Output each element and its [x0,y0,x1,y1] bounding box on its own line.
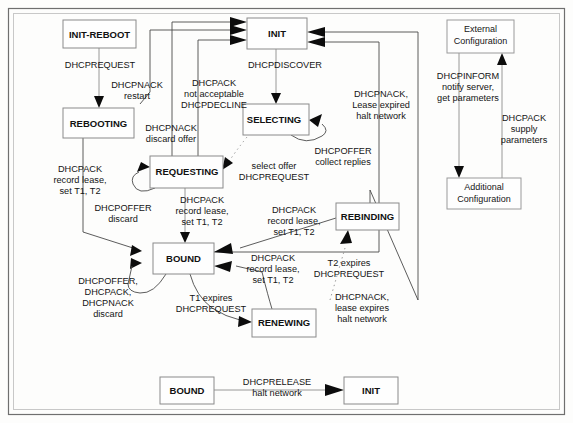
label-bound-to-renewing: T1 expires DHCPREQUEST [176,293,247,314]
edge-label-line: set T1, T2 [181,217,222,227]
state-label-rebinding: REBINDING [341,211,394,222]
arrowhead-requesting-left [137,162,150,172]
edge-label-line: record lease, [267,216,320,226]
edge-label-line: DHCPACK [180,195,225,205]
state-requesting[interactable]: REQUESTING [150,156,223,188]
dhcp-state-diagram-page: INIT-REBOOT INIT REBOOTING SELECTING REQ… [0,0,573,423]
label-selecting-self-offer: DHCPOFFER collect replies [314,146,372,167]
edge-label-line: DHCPREQUEST [239,172,310,182]
edge-label-line: record lease, [246,264,299,274]
edge-label-line: DHCPNACK [82,298,134,308]
state-renewing[interactable]: RENEWING [252,309,316,337]
edge-label-line: DHCPDECLINE [181,100,247,110]
edge-label-line: DHCPNACK, [335,292,389,302]
edge-label-line: DHCPACK [192,78,237,88]
edge-label-line: halt network [356,111,406,121]
edge-label-line: DHCPNACK [111,80,163,90]
state-label-renewing: RENEWING [258,317,310,328]
edge-label-line: DHCPOFFER [94,203,152,213]
label-bound-to-init-expired: DHCPNACK, Lease expired halt network [352,89,410,121]
edge-label-line: record lease, [175,206,228,216]
box-external-configuration[interactable]: External Configuration [447,20,514,53]
edge-label-line: DHCPREQUEST [176,304,247,314]
edge-label-line: record lease, [53,175,106,185]
arrowhead-bound-right-2 [214,261,232,272]
edge-label-line: set T1, T2 [252,275,293,285]
state-label-init: INIT [268,28,286,39]
label-additional-to-external-ack: DHCPACK supply parameters [501,113,548,145]
arrowhead-rebinding-bottom [340,230,352,244]
edge-label-line: DHCPREQUEST [65,60,136,70]
external-configuration-line-1: External [464,24,497,34]
edge-label-line: DHCPDISCOVER [248,60,322,70]
edge-label-line: DHCPINFORM [437,71,499,81]
state-rebooting[interactable]: REBOOTING [63,108,134,138]
state-init-reboot[interactable]: INIT-REBOOT [63,20,136,48]
state-bound-bottom[interactable]: BOUND [160,377,214,404]
label-renewing-to-bound: DHCPACK record lease, set T1, T2 [246,253,299,285]
state-label-init-reboot: INIT-REBOOT [69,29,130,40]
state-selecting[interactable]: SELECTING [243,104,309,135]
edge-label-line: DHCPOFFER, [78,276,138,286]
edge-label-line: DHCPACK [58,164,103,174]
label-init-to-selecting: DHCPDISCOVER [248,60,322,70]
arrowhead-requesting-right [222,157,233,170]
edge-label-line: discard [93,309,123,319]
label-selecting-to-requesting: select offer DHCPREQUEST [239,161,310,182]
arrowhead-init-right-2 [307,37,325,47]
arrowhead-rebooting-top [94,96,104,108]
arrowhead-selecting-right [309,114,322,127]
arrowhead-init-left-1 [230,25,247,35]
external-configuration-line-2: Configuration [454,36,508,46]
label-bound-self-discard: DHCPOFFER, DHCPACK, DHCPNACK discard [78,276,138,319]
edge-label-line: supply [511,124,538,134]
edge-label-line: set T1, T2 [59,186,100,196]
arrowhead-init-bottom-left [325,384,344,396]
edge-label-line: T1 expires [190,293,233,303]
edge-label-line: lease expires [335,303,390,313]
edge-label-line: select offer [252,161,297,171]
label-external-to-additional-inform: DHCPINFORM notify server, get parameters [437,71,499,103]
arrowhead-bound-top [180,232,190,243]
label-requesting-to-init-decline: DHCPACK not acceptable DHCPDECLINE [181,78,247,110]
edge-label-line: T2 expires [328,258,371,268]
dhcp-state-diagram: INIT-REBOOT INIT REBOOTING SELECTING REQ… [0,0,573,423]
edge-label-line: restart [124,91,150,101]
edge-label-line: DHCPREQUEST [314,269,385,279]
state-label-bound-bottom: BOUND [170,385,205,396]
label-requesting-to-init-nack: DHCPNACK discard offer [145,123,197,144]
box-additional-configuration[interactable]: Additional Configuration [447,178,521,209]
arrowhead-external-bottom [497,53,507,65]
edge-label-line: DHCPACK, [85,287,132,297]
arrowhead-init-left-2 [230,35,247,45]
edge-label-line: DHCPRELEASE [243,377,311,387]
label-rebooting-to-init: DHCPNACK restart [111,80,163,101]
state-bound[interactable]: BOUND [153,243,214,274]
arrowhead-init-left-3 [230,17,247,27]
label-rebooting-to-bound: DHCPACK record lease, set T1, T2 [53,164,106,196]
label-rebinding-to-bound: DHCPACK record lease, set T1, T2 [267,205,320,237]
edge-selecting-to-requesting [228,137,247,163]
edge-label-line: DHCPACK [251,253,296,263]
edge-label-line: Lease expired [352,100,410,110]
state-init[interactable]: INIT [247,18,307,49]
label-renewing-to-rebinding: T2 expires DHCPREQUEST [314,258,385,279]
state-label-init-bottom: INIT [362,385,380,396]
additional-configuration-line-2: Configuration [457,194,511,204]
edge-label-line: discard [108,214,138,224]
state-init-bottom[interactable]: INIT [344,377,398,404]
arrowhead-bound-left-1 [130,245,142,256]
state-label-rebooting: REBOOTING [70,118,128,129]
edge-label-line: DHCPACK [502,113,547,123]
arrowhead-renewing-left [238,316,252,327]
additional-configuration-line-1: Additional [464,182,504,192]
state-rebinding[interactable]: REBINDING [336,203,399,230]
arrowhead-init-right-1 [307,27,325,37]
state-label-selecting: SELECTING [247,114,301,125]
edge-label-line: DHCPACK [272,205,317,215]
label-requesting-to-bound: DHCPACK record lease, set T1, T2 [175,195,228,227]
edge-label-line: DHCPNACK, [354,89,408,99]
edge-label-line: halt network [337,314,387,324]
state-label-bound: BOUND [166,253,201,264]
edge-label-line: get parameters [437,93,499,103]
